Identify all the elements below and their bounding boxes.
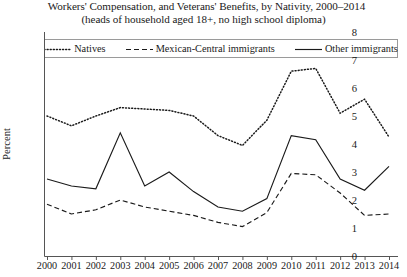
x-tick-label: 2000 [37, 260, 57, 271]
x-tick-label: 2009 [257, 260, 277, 271]
chart-title-block: Workers' Compensation, and Veterans' Ben… [0, 0, 407, 26]
x-tick-label: 2010 [281, 260, 301, 271]
series-line [47, 68, 389, 145]
y-tick-label: 3 [343, 167, 357, 178]
x-tick-label: 2005 [159, 260, 179, 271]
series-line [47, 173, 389, 226]
x-tick-label: 2001 [61, 260, 81, 271]
x-tick-label: 2014 [379, 260, 399, 271]
x-tick-label: 2006 [183, 260, 203, 271]
x-tick-label: 2003 [110, 260, 130, 271]
y-tick-label: 4 [343, 139, 357, 150]
x-tick-label: 2007 [208, 260, 228, 271]
chart-title: Workers' Compensation, and Veterans' Ben… [0, 0, 407, 13]
x-tick-label: 2013 [354, 260, 374, 271]
series-line [47, 133, 389, 211]
x-tick-label: 2008 [232, 260, 252, 271]
x-tick-label: 2011 [306, 260, 326, 271]
y-axis-label: Percent [1, 128, 12, 160]
chart-subtitle: (heads of household aged 18+, no high sc… [0, 13, 407, 26]
x-tick-label: 2012 [330, 260, 350, 271]
y-tick-label: 5 [343, 111, 357, 122]
x-tick-label: 2002 [86, 260, 106, 271]
chart-figure: Workers' Compensation, and Veterans' Ben… [0, 0, 407, 277]
y-tick-label: 8 [343, 27, 357, 38]
y-tick-label: 6 [343, 83, 357, 94]
y-tick-label: 7 [343, 55, 357, 66]
y-tick-label: 1 [343, 223, 357, 234]
x-tick-label: 2004 [135, 260, 155, 271]
y-tick-label: 2 [343, 195, 357, 206]
